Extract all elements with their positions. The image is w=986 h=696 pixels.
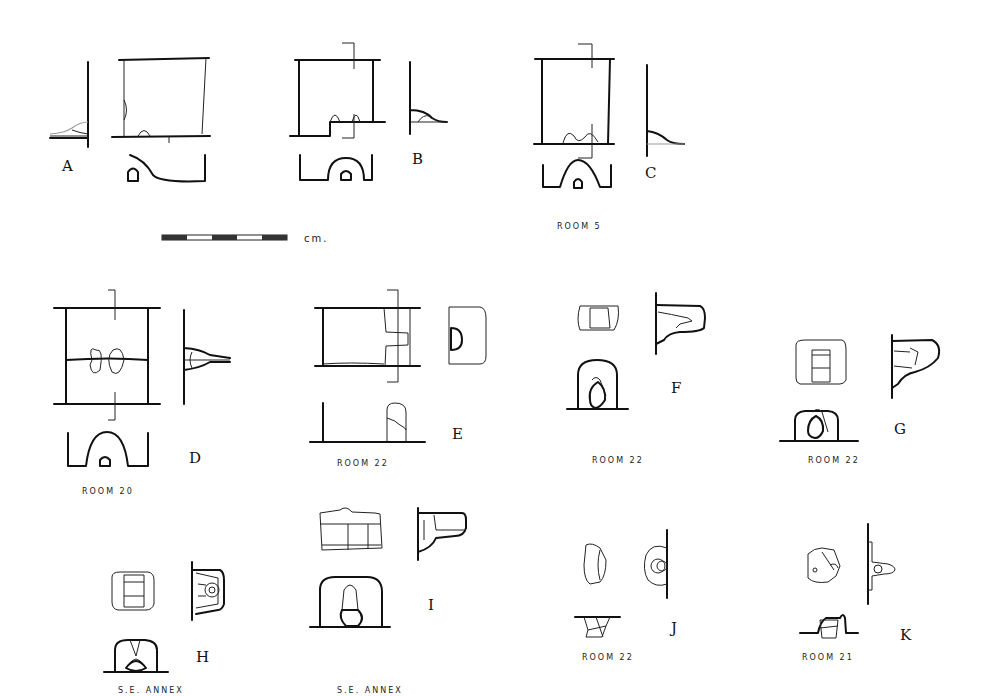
caption-d: ROOM 20 [82, 487, 134, 496]
label-b: B [412, 150, 423, 168]
caption-g: ROOM 22 [808, 456, 860, 465]
drawing-k [800, 524, 895, 638]
drawing-f [567, 293, 705, 409]
scale-bar [162, 235, 287, 240]
label-k: K [900, 626, 912, 644]
label-d: D [189, 449, 201, 467]
label-h: H [196, 648, 209, 666]
drawing-i [310, 508, 466, 627]
caption-e: ROOM 22 [337, 459, 389, 468]
caption-h: S.E. ANNEX [118, 686, 184, 695]
drawing-j [575, 530, 667, 637]
label-e: E [452, 425, 463, 443]
drawing-e [310, 290, 486, 442]
label-f: F [671, 379, 681, 397]
figure-canvas: A B C ROOM 5 cm. [0, 0, 986, 696]
drawing-c [534, 44, 684, 188]
label-j: J [669, 619, 677, 637]
label-g: G [894, 420, 906, 438]
scale-unit: cm. [304, 233, 328, 244]
caption-i: S.E. ANNEX [337, 686, 403, 695]
drawing-d [54, 290, 230, 466]
caption-k: ROOM 21 [802, 653, 854, 662]
drawing-b [290, 43, 447, 180]
caption-f: ROOM 22 [592, 456, 644, 465]
drawing-g [780, 335, 939, 441]
label-i: I [428, 596, 434, 614]
caption-j: ROOM 22 [582, 653, 634, 662]
caption-c: ROOM 5 [557, 222, 602, 231]
drawing-a [50, 58, 210, 181]
label-a: A [61, 157, 73, 175]
label-c: C [645, 164, 656, 182]
